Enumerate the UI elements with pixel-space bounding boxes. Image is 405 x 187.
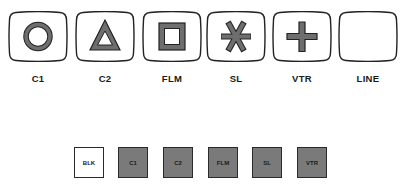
monitor-line	[338, 11, 398, 62]
blank-icon	[338, 11, 398, 62]
monitor-label: VTR	[272, 73, 332, 84]
square-icon	[142, 11, 202, 62]
monitor-label: LINE	[338, 73, 398, 84]
switch-button-label: VTR	[306, 160, 318, 166]
monitor-c2	[75, 11, 135, 62]
monitor-label: SL	[206, 73, 266, 84]
monitor-label: C1	[8, 73, 68, 84]
switch-button-label: SL	[263, 160, 271, 166]
switch-button-vtr[interactable]: VTR	[297, 147, 327, 178]
circle-icon	[8, 11, 68, 62]
switch-button-sl[interactable]: SL	[252, 147, 282, 178]
switch-button-label: C2	[174, 160, 182, 166]
monitor-label: C2	[75, 73, 135, 84]
monitor-c1	[8, 11, 68, 62]
monitor-vtr	[272, 11, 332, 62]
triangle-icon	[75, 11, 135, 62]
monitor-sl	[206, 11, 266, 62]
switch-button-label: BLK	[83, 160, 95, 166]
asterisk-icon	[206, 11, 266, 62]
switch-button-flm[interactable]: FLM	[208, 147, 238, 178]
monitor-flm	[142, 11, 202, 62]
switch-button-c1[interactable]: C1	[118, 147, 148, 178]
switch-button-blk[interactable]: BLK	[74, 147, 104, 178]
monitor-label: FLM	[142, 73, 202, 84]
switch-button-c2[interactable]: C2	[163, 147, 193, 178]
switch-button-label: C1	[129, 160, 137, 166]
plus-icon	[272, 11, 332, 62]
switch-button-label: FLM	[217, 160, 229, 166]
